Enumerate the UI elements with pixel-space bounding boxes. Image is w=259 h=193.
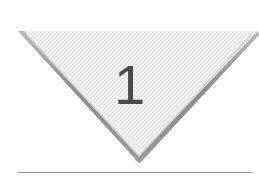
chapter-number-label: 1 (0, 57, 259, 113)
page-canvas: 1 (0, 0, 259, 193)
chapter-number-marker: 1 (0, 0, 259, 193)
